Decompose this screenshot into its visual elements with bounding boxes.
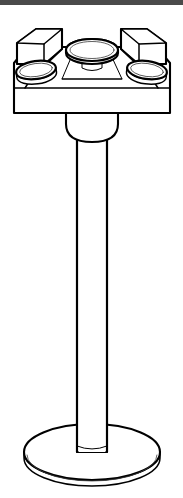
column-shaft (77, 136, 107, 452)
column-group (77, 136, 107, 452)
pedestal-stand-drawing: Pedestal stand line drawing Black and wh… (0, 0, 183, 498)
collar-group (66, 113, 118, 142)
column-foot-mask (79, 440, 106, 452)
collar-shape (66, 113, 118, 142)
center-cap-top (66, 39, 118, 61)
illustration-canvas: Pedestal stand line drawing Black and wh… (0, 0, 183, 498)
